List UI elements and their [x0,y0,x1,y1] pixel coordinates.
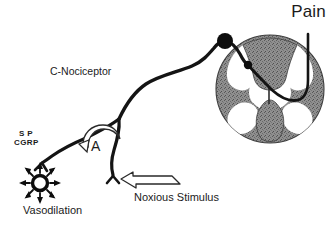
dorsal-root-ganglion-cell-body [217,33,233,49]
dorsal-horn-synapse [244,61,252,69]
noxious-arrow-shape [121,172,180,188]
vasodilation-starburst [19,162,61,204]
c-fibre-central-axon [119,41,224,119]
vasodilation-label: Vasodilation [23,205,82,217]
nociceptor-diagram: Pain C-Nociceptor S P CGRP A Vasodilatio… [0,0,334,226]
pain-label: Pain [291,3,326,21]
noxious-stimulus-arrow [121,172,180,188]
cgrp-label: CGRP [14,139,39,148]
axon-reflex-label: A [91,139,100,154]
c-nociceptor-label: C-Nociceptor [50,66,111,77]
free-nerve-ending [107,176,119,183]
noxious-stimulus-label: Noxious Stimulus [134,192,219,204]
vessel-lumen-ring [33,176,48,191]
